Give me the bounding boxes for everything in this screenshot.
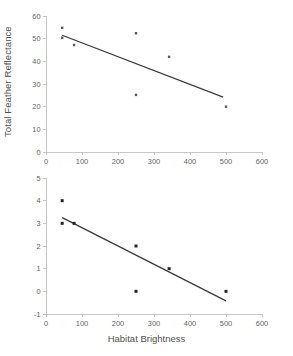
x-tick-label: 100 [76, 157, 88, 166]
y-tick-label: 50 [32, 34, 40, 43]
x-axis-title-habitat-brightness: Habitat Brightness [0, 333, 293, 344]
y-tick-label: 5 [36, 174, 40, 183]
y-tick-label: 2 [36, 242, 40, 251]
data-point [61, 27, 63, 29]
data-point [135, 245, 138, 248]
x-tick-label: 300 [148, 157, 160, 166]
regression-trend-line [62, 218, 226, 301]
y-tick-label: 4 [36, 196, 40, 205]
data-point [135, 290, 138, 293]
x-tick-label: 400 [184, 319, 196, 328]
regression-trend-line [62, 35, 223, 97]
scatter-plot-patches: -10123450100200300400500600 [0, 166, 293, 356]
x-tick-label: 100 [76, 319, 88, 328]
x-tick-label: 200 [112, 319, 124, 328]
data-point [168, 267, 171, 270]
x-tick-label: 500 [220, 157, 232, 166]
data-point [61, 222, 64, 225]
y-tick-label: 60 [32, 12, 40, 21]
data-point [61, 199, 64, 202]
y-tick-label: -1 [34, 310, 41, 319]
x-tick-label: 0 [44, 319, 48, 328]
data-point [168, 56, 170, 58]
y-tick-label: 30 [32, 80, 40, 89]
data-point [61, 37, 63, 39]
x-tick-label: 0 [44, 157, 48, 166]
y-tick-label: 40 [32, 57, 40, 66]
chart-panel-patches: Number of Colour Patches -10123450100200… [0, 166, 293, 356]
x-tick-label: 400 [184, 157, 196, 166]
chart-panel-reflectance: Total Feather Reflectance 01020304050600… [0, 0, 293, 178]
y-tick-label: 10 [32, 125, 40, 134]
x-tick-label: 600 [256, 157, 268, 166]
data-point [135, 32, 137, 34]
y-tick-label: 0 [36, 148, 40, 157]
y-tick-label: 1 [36, 264, 40, 273]
scatter-plot-reflectance: 01020304050600100200300400500600 [0, 0, 293, 178]
data-point [225, 290, 228, 293]
y-tick-label: 0 [36, 287, 40, 296]
x-tick-label: 500 [220, 319, 232, 328]
x-tick-label: 600 [256, 319, 268, 328]
data-point [73, 222, 76, 225]
y-tick-label: 20 [32, 102, 40, 111]
data-point [73, 44, 75, 46]
figure-container: Total Feather Reflectance 01020304050600… [0, 0, 293, 356]
data-point [225, 105, 227, 107]
x-tick-label: 200 [112, 157, 124, 166]
x-tick-label: 300 [148, 319, 160, 328]
data-point [135, 94, 137, 96]
y-tick-label: 3 [36, 219, 40, 228]
